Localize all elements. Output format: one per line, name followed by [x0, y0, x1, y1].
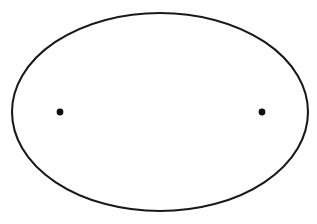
ellipse-focal-ray-diagram: [0, 0, 317, 224]
figure-root: [0, 0, 317, 224]
right-focus-point: [259, 109, 266, 116]
left-focus-point: [57, 109, 64, 116]
